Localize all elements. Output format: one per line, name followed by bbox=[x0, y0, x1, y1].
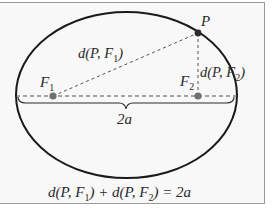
label-distance-p-f2: d(P, F2) bbox=[200, 64, 245, 83]
ellipse-diagram: P F1 F2 d(P, F1) d(P, F2) 2a d(P, F1) + … bbox=[0, 0, 275, 216]
equation: d(P, F1) + d(P, F2) = 2a bbox=[48, 184, 191, 203]
label-f1: F1 bbox=[39, 74, 54, 93]
ellipse-curve bbox=[16, 12, 237, 178]
label-p: P bbox=[200, 13, 210, 29]
label-distance-p-f1: d(P, F1) bbox=[78, 45, 123, 64]
label-f2: F2 bbox=[179, 73, 194, 92]
point-p bbox=[195, 30, 202, 37]
focus1-point bbox=[49, 92, 56, 99]
label-major-axis: 2a bbox=[117, 111, 132, 127]
major-axis-brace bbox=[18, 97, 234, 109]
focus2-point bbox=[194, 92, 201, 99]
segment-p-f1 bbox=[53, 33, 198, 96]
